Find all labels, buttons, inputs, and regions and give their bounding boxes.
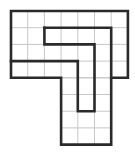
piece-cut-line-2 [11, 28, 95, 112]
grid-puzzle-diagram [0, 0, 135, 157]
